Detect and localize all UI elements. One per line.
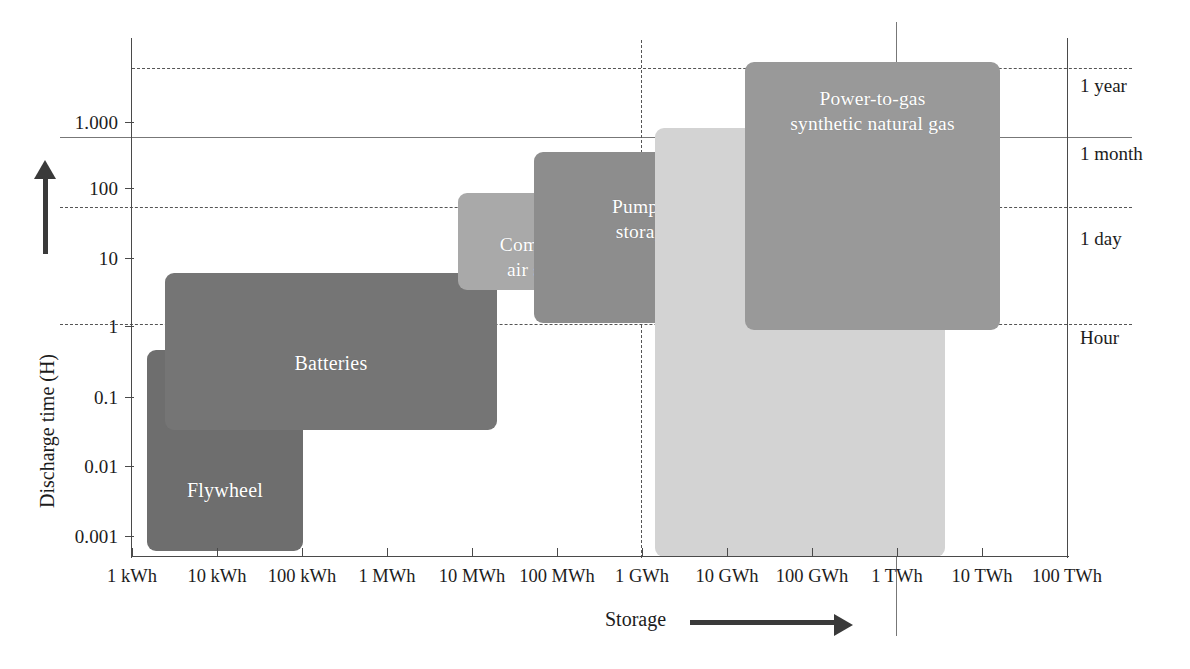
y-tick-mark xyxy=(125,258,134,259)
region-label: Flywheel xyxy=(187,478,263,504)
x-tick-mark xyxy=(812,548,813,557)
x-tick-mark xyxy=(132,548,133,557)
x-tick-mark xyxy=(897,548,898,557)
y-tick-mark xyxy=(125,466,134,467)
x-axis-arrow-head xyxy=(834,614,853,636)
time-label-1-day: 1 day xyxy=(1080,228,1122,250)
y-axis-title: Discharge time (H) xyxy=(36,354,59,508)
region-box-power-to-gas-synthetic-natural-gas: Power-to-gassynthetic natural gas xyxy=(745,62,1000,330)
y-tick-label: 0.001 xyxy=(0,526,118,548)
x-tick-mark xyxy=(217,548,218,557)
y-tick-label: 0.1 xyxy=(0,387,118,409)
time-label-1-year: 1 year xyxy=(1080,75,1127,97)
y-tick-mark xyxy=(125,397,134,398)
x-axis-title: Storage xyxy=(605,608,666,631)
region-box-batteries: Batteries xyxy=(165,273,497,430)
y-tick-label: 1 xyxy=(0,316,118,338)
time-label-1-month: 1 month xyxy=(1080,143,1143,165)
x-tick-mark xyxy=(982,548,983,557)
y-axis-line xyxy=(131,38,132,558)
region-label: Power-to-gassynthetic natural gas xyxy=(790,87,955,137)
x-axis-arrow-shaft xyxy=(690,620,837,625)
time-label-hour: Hour xyxy=(1080,327,1119,349)
x-tick-mark xyxy=(387,548,388,557)
y-tick-label: 10 xyxy=(0,248,118,270)
y-axis-arrow-shaft xyxy=(43,178,48,254)
x-tick-mark xyxy=(472,548,473,557)
plot-right-border xyxy=(1067,38,1068,558)
x-axis-line xyxy=(131,556,1069,557)
x-tick-mark xyxy=(557,548,558,557)
region-label: Batteries xyxy=(295,351,368,377)
y-axis-arrow-head xyxy=(34,160,56,179)
y-tick-label: 0.01 xyxy=(0,456,118,478)
y-tick-label: 100 xyxy=(0,178,118,200)
x-tick-mark xyxy=(302,548,303,557)
y-tick-label: 1.000 xyxy=(0,112,118,134)
x-tick-label: 100 TWh xyxy=(1007,566,1127,587)
x-tick-mark xyxy=(727,548,728,557)
y-tick-mark xyxy=(125,536,134,537)
x-tick-mark xyxy=(1067,548,1068,557)
x-tick-mark xyxy=(642,548,643,557)
chart-canvas: FlywheelBatteriesCompressedair storagePu… xyxy=(0,0,1190,669)
y-tick-mark xyxy=(125,122,134,123)
y-tick-mark xyxy=(125,188,134,189)
y-tick-mark xyxy=(125,326,134,327)
